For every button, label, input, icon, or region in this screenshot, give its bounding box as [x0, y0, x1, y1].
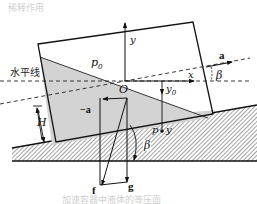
accel-label: a: [219, 50, 225, 61]
height-label: H: [37, 117, 47, 128]
gravity-g-label: g: [128, 181, 134, 192]
beta-top-label: β: [216, 70, 222, 81]
p0-label: p0: [91, 57, 103, 71]
figure-bottom-caption: 加速容器中液体的等压面: [62, 193, 161, 204]
horizontal-line-label: 水平线: [10, 68, 40, 78]
point-p-label: p: [152, 125, 158, 135]
accel-arrow: [206, 62, 232, 67]
x-axis-label: x: [188, 70, 194, 80]
point-y-label: y: [166, 125, 172, 135]
neg-accel-label: −a: [80, 105, 91, 115]
origin-label: O: [119, 84, 128, 95]
beta-bottom-label: β: [143, 140, 151, 151]
y0-label: y0: [166, 84, 176, 97]
y-axis-label: y: [130, 35, 136, 45]
diagram-canvas: [0, 0, 257, 204]
